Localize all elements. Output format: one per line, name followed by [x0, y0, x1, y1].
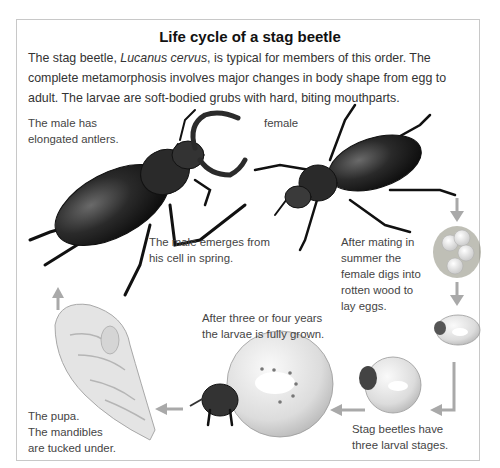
- arrow-up-to-male: [52, 287, 64, 310]
- caption-male: The male has elongated antlers.: [28, 115, 119, 147]
- caption-line: Stag beetles have: [352, 421, 448, 437]
- caption-female: female: [264, 115, 298, 131]
- caption-line: female digs into: [341, 266, 421, 282]
- caption-line: The pupa.: [28, 408, 116, 424]
- arrow-left-to-grown-larva: [330, 404, 365, 416]
- caption-line: summer the: [341, 250, 421, 266]
- medium-larva-illustration: [359, 357, 421, 413]
- arrow-corner-to-medium-larva: [430, 362, 454, 416]
- caption-line: lay eggs.: [341, 298, 421, 314]
- caption-larval-stages: Stag beetles have three larval stages.: [352, 421, 448, 453]
- caption-line: three larval stages.: [352, 437, 448, 453]
- caption-grown-larva: After three or four years the larvae is …: [202, 310, 324, 342]
- caption-line: are tucked under.: [28, 440, 116, 456]
- caption-male-emerges: The male emerges from his cell in spring…: [149, 234, 270, 266]
- small-larva-illustration: [434, 315, 480, 345]
- caption-line: The male emerges from: [149, 234, 270, 250]
- caption-line: the larvae is fully grown.: [202, 326, 324, 342]
- caption-line: rotten wood to: [341, 282, 421, 298]
- arrow-down-to-larva: [450, 282, 464, 306]
- caption-eggs: After mating in summer the female digs i…: [341, 234, 421, 314]
- caption-line: The mandibles: [28, 424, 116, 440]
- caption-pupa: The pupa. The mandibles are tucked under…: [28, 408, 116, 456]
- caption-line: After three or four years: [202, 310, 324, 326]
- caption-line: elongated antlers.: [28, 131, 119, 147]
- caption-line: After mating in: [341, 234, 421, 250]
- arrow-left-to-pupa: [155, 403, 183, 415]
- grown-larva-illustration: [190, 331, 333, 437]
- caption-line: The male has: [28, 115, 119, 131]
- caption-line: female: [264, 115, 298, 131]
- eggs-illustration: [433, 226, 481, 278]
- caption-line: his cell in spring.: [149, 250, 270, 266]
- arrow-down-to-eggs: [450, 198, 464, 222]
